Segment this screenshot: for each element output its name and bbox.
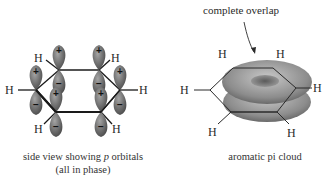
svg-text:H: H xyxy=(180,83,189,97)
p-orbital-side-view: + + + + + + − − − − − − H H H H H H xyxy=(5,45,148,137)
right-caption: aromatic pi cloud xyxy=(205,151,325,162)
svg-text:H: H xyxy=(218,47,227,61)
svg-text:H: H xyxy=(112,122,121,136)
svg-text:−: − xyxy=(98,121,104,132)
svg-text:+: + xyxy=(117,66,123,77)
svg-text:−: − xyxy=(56,78,62,89)
svg-text:H: H xyxy=(5,83,14,97)
svg-text:H: H xyxy=(34,51,43,65)
aromatic-pi-cloud: H H H H H H xyxy=(180,22,322,140)
phase-signs: + + + + + + − − − − − − xyxy=(33,45,123,132)
svg-text:+: + xyxy=(33,66,39,77)
svg-text:+: + xyxy=(96,45,102,56)
svg-text:H: H xyxy=(313,81,322,95)
svg-text:−: − xyxy=(53,121,59,132)
annotation-arrow xyxy=(244,22,254,52)
svg-text:H: H xyxy=(287,126,296,140)
arrow-head-icon xyxy=(251,47,256,54)
svg-text:H: H xyxy=(276,47,285,61)
svg-text:H: H xyxy=(111,51,120,65)
left-caption-line2: (all in phase) xyxy=(8,164,158,175)
complete-overlap-label: complete overlap xyxy=(203,4,279,16)
front-bonds xyxy=(36,90,120,112)
svg-text:−: − xyxy=(33,99,39,110)
svg-text:H: H xyxy=(208,125,217,139)
svg-text:−: − xyxy=(117,99,123,110)
left-caption-line1: side view showing p orbitals xyxy=(8,151,158,162)
svg-text:+: + xyxy=(98,88,104,99)
cloud-center-hole xyxy=(251,75,279,87)
svg-text:H: H xyxy=(34,122,43,136)
svg-text:H: H xyxy=(139,83,148,97)
hydrogen-labels-left: H H H H H H xyxy=(5,51,148,136)
svg-text:−: − xyxy=(96,78,102,89)
svg-text:+: + xyxy=(53,88,59,99)
svg-text:+: + xyxy=(56,45,62,56)
